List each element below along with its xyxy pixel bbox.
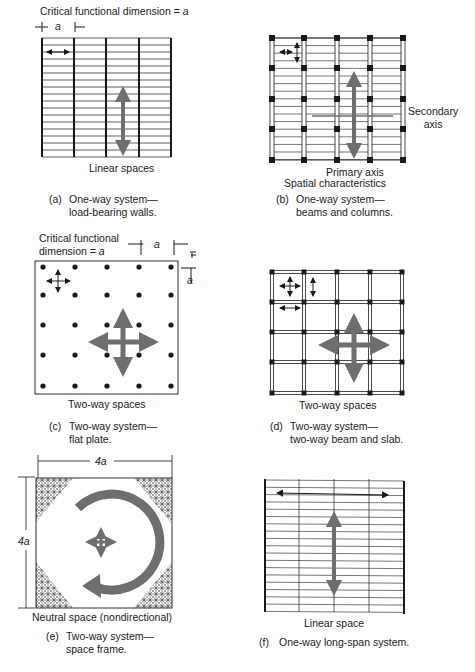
panel-c-dimension-label: Critical functional dimension = a (39, 232, 119, 258)
dimension-text: dimension = (39, 245, 99, 257)
panel-c-tick-label-h: a (154, 238, 160, 251)
panel-c-space-label: Two-way spaces (68, 398, 146, 411)
panel-b-secondary-axis-label: Secondary axis (408, 105, 458, 131)
panel-c-caption: (c)Two-way system— flat plate. (49, 420, 157, 446)
caption-line: One-way long-span system. (279, 636, 409, 648)
caption-letter: (f) (259, 636, 279, 649)
panel-c-flat-plate-plan (35, 261, 178, 394)
panel-d-beam-slab-plan (270, 270, 405, 396)
caption-letter: (d) (270, 420, 290, 433)
caption-line: space frame. (46, 643, 154, 656)
panel-e-width-label: 4a (95, 455, 107, 468)
caption-letter: (a) (49, 193, 69, 206)
panel-b-caption: (b)One-way system— beams and columns. (276, 193, 393, 219)
panel-a-load-bearing-walls-plan (42, 38, 171, 157)
panel-a-dimension-ticks (35, 22, 85, 32)
panel-b-beams-columns-plan (270, 36, 406, 163)
caption-line: Two-way system— (290, 420, 378, 432)
caption-letter: (c) (49, 420, 69, 433)
panel-c-two-way-arrow (93, 313, 154, 372)
dimension-variable: a (99, 245, 105, 257)
panel-b-space-label: Spatial characteristics (284, 177, 386, 190)
caption-line: Two-way system— (66, 630, 154, 642)
panel-e-space-label: Neutral space (nondirectional) (32, 611, 172, 624)
axis-label: axis (424, 118, 443, 130)
panel-f-space-label: Linear space (304, 617, 364, 630)
caption-line: Two-way system— (69, 420, 157, 432)
panel-d-space-label: Two-way spaces (299, 399, 377, 412)
panel-f-caption: (f)One-way long-span system. (259, 636, 409, 649)
panel-e-height-label: 4a (18, 535, 30, 548)
caption-line: flat plate. (49, 433, 157, 446)
caption-line: beams and columns. (276, 206, 393, 219)
panel-c-dimension-ticks (128, 240, 196, 283)
caption-line: two-way beam and slab. (270, 433, 403, 446)
dimension-text: Critical functional (39, 232, 119, 244)
panel-d-caption: (d)Two-way system— two-way beam and slab… (270, 420, 403, 446)
panel-a-space-label: Linear spaces (89, 162, 154, 175)
caption-letter: (b) (276, 193, 296, 206)
panel-c-tick-label-v: a (187, 274, 193, 287)
axis-label: Secondary (408, 105, 458, 117)
diagram-drawings (0, 0, 475, 672)
panel-e-caption: (e)Two-way system— space frame. (46, 630, 154, 656)
caption-letter: (e) (46, 630, 66, 643)
caption-line: One-way system— (296, 193, 385, 205)
panel-d-two-way-arrow (323, 318, 385, 378)
panel-a-caption: (a)One-way system— load-bearing walls. (49, 193, 158, 219)
panel-e-nondirectional-arrow (88, 530, 114, 555)
panel-e-rotation-arrow (78, 494, 160, 598)
caption-line: One-way system— (69, 193, 158, 205)
caption-line: load-bearing walls. (49, 206, 158, 219)
